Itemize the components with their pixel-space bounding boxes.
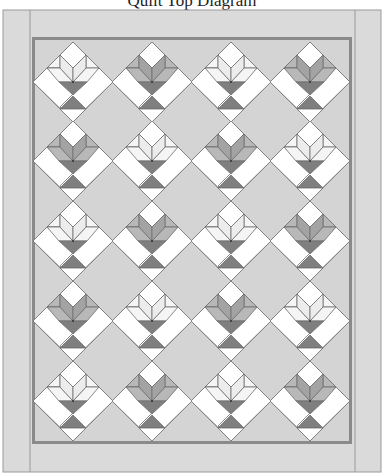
center-point <box>230 240 232 242</box>
center-point <box>72 320 74 322</box>
center-point <box>230 400 232 402</box>
center-point <box>72 400 74 402</box>
center-point <box>309 160 311 162</box>
center-point <box>309 320 311 322</box>
quilt-diagram <box>0 0 384 474</box>
center-point <box>151 81 153 83</box>
center-point <box>72 240 74 242</box>
center-point <box>230 160 232 162</box>
center-point <box>151 160 153 162</box>
center-point <box>230 81 232 83</box>
center-point <box>72 160 74 162</box>
center-point <box>151 240 153 242</box>
center-point <box>309 400 311 402</box>
center-point <box>309 81 311 83</box>
center-point <box>151 320 153 322</box>
center-point <box>309 240 311 242</box>
center-point <box>72 81 74 83</box>
center-point <box>230 320 232 322</box>
center-point <box>151 400 153 402</box>
